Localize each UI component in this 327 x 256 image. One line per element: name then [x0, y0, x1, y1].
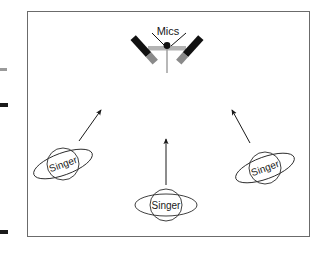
- mic-apex-dot: [164, 42, 171, 49]
- diagram-canvas: Singer Singer Singer Mics: [0, 0, 327, 256]
- singer-center-label: Singer: [152, 200, 182, 211]
- left-tick-middle: [0, 103, 8, 107]
- stage-setup-diagram: Singer Singer Singer Mics: [0, 0, 327, 256]
- left-tick-lower: [0, 230, 8, 234]
- left-tick-upper: [0, 68, 7, 71]
- mics-label: Mics: [157, 25, 180, 37]
